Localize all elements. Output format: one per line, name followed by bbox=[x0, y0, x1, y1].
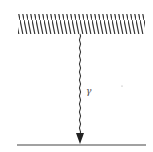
hatched-source-slab bbox=[18, 14, 145, 34]
arrowhead-icon bbox=[76, 133, 84, 144]
stray-dot bbox=[121, 85, 122, 86]
gamma-label: γ bbox=[86, 86, 92, 96]
gamma-ray-arrow bbox=[76, 34, 84, 144]
diagram-canvas: γ bbox=[0, 0, 153, 152]
